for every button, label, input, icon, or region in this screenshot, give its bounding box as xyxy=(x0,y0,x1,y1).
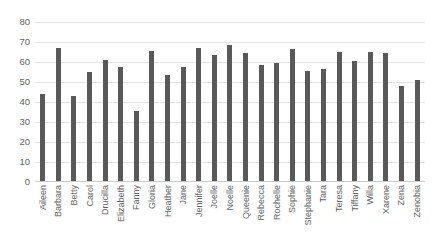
x-axis-line xyxy=(35,181,425,182)
y-axis-tick-label: 60 xyxy=(0,57,30,67)
x-axis-tick: Heather xyxy=(160,185,176,245)
x-axis-tick: Jane xyxy=(175,185,191,245)
bar xyxy=(56,48,61,182)
bar xyxy=(71,96,76,182)
x-axis-tick: Xarene xyxy=(378,185,394,245)
plot-area xyxy=(35,22,425,182)
x-axis-tick: Queenie xyxy=(238,185,254,245)
x-axis-tick-label: Rebecca xyxy=(257,185,266,221)
x-axis-tick-label: Teresa xyxy=(335,185,344,212)
bar xyxy=(134,111,139,182)
chart-title xyxy=(0,0,441,1)
bar xyxy=(165,75,170,182)
bar xyxy=(40,94,45,182)
bar xyxy=(305,71,310,182)
bar xyxy=(118,67,123,182)
x-axis-tick: Elizabeth xyxy=(113,185,129,245)
x-axis-tick: Rochelle xyxy=(269,185,285,245)
x-axis-tick: Joelle xyxy=(207,185,223,245)
y-axis: 80706050403020100 xyxy=(0,22,30,182)
bar-slot xyxy=(409,22,425,182)
bar xyxy=(196,48,201,182)
x-axis-tick-label: Zena xyxy=(397,185,406,206)
bar xyxy=(227,45,232,182)
y-axis-tick-label: 50 xyxy=(0,77,30,87)
x-axis-tick: Stephanie xyxy=(300,185,316,245)
y-axis-tick-label: 0 xyxy=(0,177,30,187)
x-axis-tick: Zena xyxy=(394,185,410,245)
bar-slot xyxy=(35,22,51,182)
bar-chart: 80706050403020100 AileenBarbaraBettyCaro… xyxy=(0,0,441,245)
bar-slot xyxy=(82,22,98,182)
bar-slot xyxy=(113,22,129,182)
x-axis-tick: Jennifer xyxy=(191,185,207,245)
x-axis-tick: Teresa xyxy=(331,185,347,245)
bar-slot xyxy=(175,22,191,182)
x-axis-tick-label: Jane xyxy=(179,185,188,205)
bar xyxy=(103,60,108,182)
bar-slot xyxy=(285,22,301,182)
y-axis-tick-label: 70 xyxy=(0,37,30,47)
x-axis-tick-label: Betty xyxy=(69,185,78,206)
x-axis-tick-label: Stephanie xyxy=(303,185,312,226)
bar xyxy=(212,55,217,182)
bar xyxy=(243,53,248,182)
bar-slot xyxy=(300,22,316,182)
x-axis-tick-label: Tara xyxy=(319,185,328,203)
y-axis-tick-label: 10 xyxy=(0,157,30,167)
bar xyxy=(321,69,326,182)
y-axis-tick-label: 30 xyxy=(0,117,30,127)
bar-slot xyxy=(207,22,223,182)
x-axis-tick-label: Barbara xyxy=(54,185,63,217)
y-axis-tick-label: 80 xyxy=(0,17,30,27)
x-axis-tick-label: Drucilla xyxy=(101,185,110,215)
x-axis: AileenBarbaraBettyCarolDrucillaElizabeth… xyxy=(35,185,425,245)
y-axis-tick-label: 20 xyxy=(0,137,30,147)
bar xyxy=(149,51,154,182)
x-axis-tick: Fanny xyxy=(129,185,145,245)
bar-slot xyxy=(362,22,378,182)
bar xyxy=(415,80,420,182)
bar-slot xyxy=(222,22,238,182)
x-axis-tick: Betty xyxy=(66,185,82,245)
x-axis-tick: Sophie xyxy=(285,185,301,245)
bar xyxy=(181,67,186,182)
bar-slot xyxy=(347,22,363,182)
bar xyxy=(337,52,342,182)
bar-slot xyxy=(269,22,285,182)
bar-slot xyxy=(97,22,113,182)
x-axis-tick-label: Xarene xyxy=(381,185,390,214)
bars-group xyxy=(35,22,425,182)
bar xyxy=(399,86,404,182)
x-axis-tick-label: Fanny xyxy=(132,185,141,210)
x-axis-tick-label: Elizabeth xyxy=(116,185,125,222)
bar xyxy=(274,63,279,182)
x-axis-tick-label: Aileen xyxy=(38,185,47,210)
x-axis-tick: Gloria xyxy=(144,185,160,245)
bar-slot xyxy=(316,22,332,182)
bar xyxy=(259,65,264,182)
x-axis-tick: Aileen xyxy=(35,185,51,245)
x-axis-tick: Carol xyxy=(82,185,98,245)
bar-slot xyxy=(129,22,145,182)
x-axis-tick-label: Willa xyxy=(366,185,375,205)
bar xyxy=(87,72,92,182)
x-axis-tick: Tiffany xyxy=(347,185,363,245)
bar-slot xyxy=(238,22,254,182)
x-axis-tick-label: Joelle xyxy=(210,185,219,209)
x-axis-tick-label: Carol xyxy=(85,185,94,207)
x-axis-tick: Noelle xyxy=(222,185,238,245)
bar-slot xyxy=(331,22,347,182)
x-axis-tick-label: Tiffany xyxy=(350,185,359,212)
x-axis-tick-label: Jennifer xyxy=(194,185,203,217)
bar-slot xyxy=(378,22,394,182)
bar-slot xyxy=(253,22,269,182)
bar xyxy=(352,61,357,182)
y-axis-tick-label: 40 xyxy=(0,97,30,107)
bar-slot xyxy=(66,22,82,182)
x-axis-tick: Drucilla xyxy=(97,185,113,245)
x-axis-tick: Barbara xyxy=(51,185,67,245)
bar-slot xyxy=(394,22,410,182)
x-axis-tick-label: Rochelle xyxy=(272,185,281,220)
x-axis-tick-label: Gloria xyxy=(147,185,156,209)
